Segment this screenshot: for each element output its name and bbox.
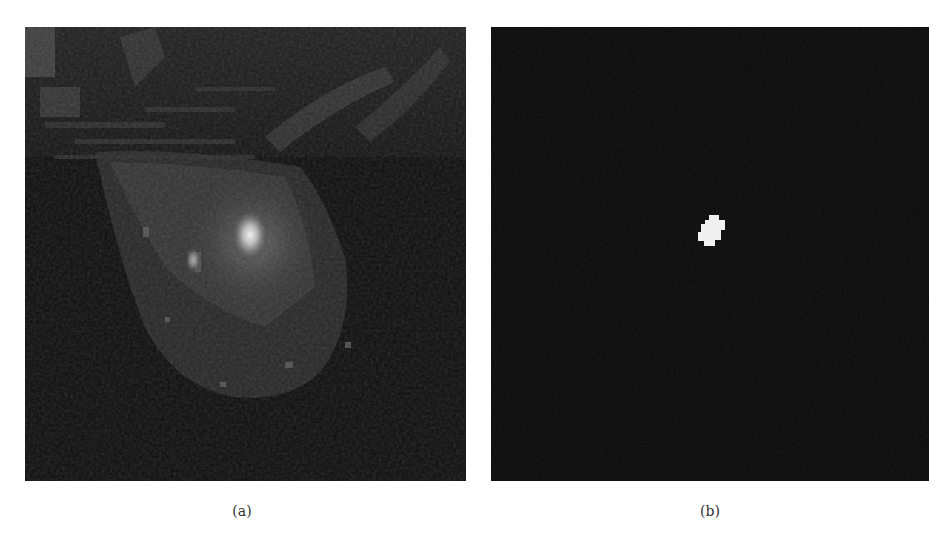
panel-a-caption: (a)	[212, 503, 272, 519]
segmentation-mask-image	[491, 27, 929, 481]
mri-image-panel	[25, 27, 466, 481]
panel-b-caption: (b)	[680, 503, 740, 519]
mri-scan-image	[25, 27, 466, 481]
segmentation-mask-panel	[491, 27, 929, 481]
